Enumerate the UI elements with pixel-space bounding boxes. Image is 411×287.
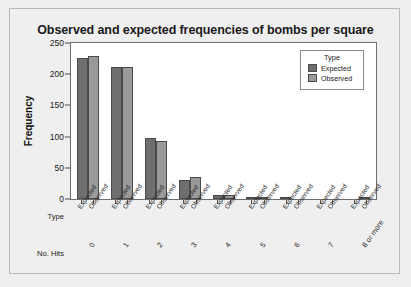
x-hits-label-group: 5 (241, 242, 275, 282)
x-hits-label-group: 2 (138, 242, 172, 282)
bar-group (240, 43, 274, 199)
y-tick-label: 100 (50, 132, 64, 142)
legend: Type Expected Observed (300, 50, 364, 90)
x-type-label-group: ExpectedObserved (275, 205, 309, 239)
figure-canvas: Observed and expected frequencies of bom… (0, 0, 411, 287)
y-tick-label: 50 (55, 163, 64, 173)
x-type-label-group: ExpectedObserved (309, 205, 343, 239)
x-hits-label: 4 (223, 241, 233, 250)
bar-group (105, 43, 139, 199)
x-hits-label: 1 (121, 241, 131, 250)
x-hits-label-group: 6 (275, 242, 309, 282)
figure-frame: Observed and expected frequencies of bom… (9, 8, 400, 274)
legend-swatch-expected (308, 64, 317, 72)
y-tick-label: 150 (50, 100, 64, 110)
y-tick-label: 0 (59, 194, 64, 204)
legend-label-observed: Observed (321, 74, 352, 83)
x-type-label-group: ExpectedObserved (172, 205, 206, 239)
x-hits-label: 3 (189, 241, 199, 250)
legend-item-observed: Observed (308, 73, 360, 83)
x-type-label-group: ExpectedObserved (104, 205, 138, 239)
x-type-label-group: ExpectedObserved (241, 205, 275, 239)
x-axis-type-labels: ExpectedObservedExpectedObservedExpected… (70, 205, 377, 239)
x-hits-label-group: 7 (309, 242, 343, 282)
y-tick-label: 250 (50, 38, 64, 48)
x-hits-label: 5 (258, 241, 268, 250)
bar-group (139, 43, 173, 199)
row-header-hits: No. Hits (10, 249, 64, 258)
bar-group (207, 43, 241, 199)
row-header-type: Type (16, 212, 64, 221)
x-hits-label-group: 8 or more (343, 242, 377, 282)
bar-group (173, 43, 207, 199)
x-hits-label-group: 4 (206, 242, 240, 282)
x-axis-hits-labels: 012345678 or more (70, 242, 377, 282)
legend-swatch-observed (308, 74, 317, 82)
bar-observed-0 (88, 56, 99, 199)
bar-group (71, 43, 105, 199)
x-hits-label-group: 1 (104, 242, 138, 282)
y-tick-label: 200 (50, 69, 64, 79)
x-type-label-group: ExpectedObserved (70, 205, 104, 239)
x-type-label-group: ExpectedObserved (138, 205, 172, 239)
x-type-label-group: ExpectedObserved (206, 205, 240, 239)
legend-title: Type (304, 53, 360, 62)
x-hits-label: 6 (292, 241, 302, 250)
chart-title: Observed and expected frequencies of bom… (10, 23, 401, 37)
x-hits-label: 2 (155, 241, 165, 250)
y-axis: Frequency 050100150200250 (10, 42, 70, 200)
x-hits-label-group: 0 (70, 242, 104, 282)
plot-area: Type Expected Observed (70, 42, 377, 200)
legend-item-expected: Expected (308, 63, 360, 73)
bar-expected-1 (111, 67, 122, 199)
bar-observed-1 (122, 67, 133, 199)
bar-expected-0 (77, 58, 88, 199)
x-hits-label: 7 (326, 241, 336, 250)
x-hits-label-group: 3 (172, 242, 206, 282)
legend-label-expected: Expected (321, 64, 351, 73)
x-hits-label: 0 (87, 241, 97, 250)
y-axis-label: Frequency (23, 66, 34, 176)
